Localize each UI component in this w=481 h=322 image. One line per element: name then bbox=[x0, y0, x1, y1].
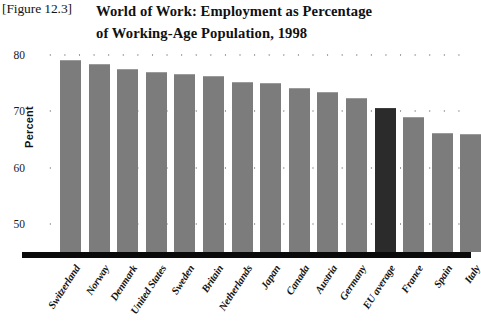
x-tick-label-france: France bbox=[399, 263, 425, 295]
bar-britain[interactable] bbox=[203, 76, 224, 252]
bar-netherlands[interactable] bbox=[232, 82, 253, 252]
bar-switzerland[interactable] bbox=[60, 60, 81, 252]
x-tick-label-britain: Britain bbox=[200, 263, 226, 294]
plot-area: 50607080 bbox=[39, 47, 471, 257]
x-tick-label-japan: Japan bbox=[259, 263, 283, 291]
bar-canada[interactable] bbox=[289, 88, 310, 252]
x-tick-label-switzerland: Switzerland bbox=[46, 263, 82, 311]
figure-number-label: [Figure 12.3] bbox=[2, 1, 72, 17]
y-tick-label: 70 bbox=[14, 105, 26, 117]
x-tick-label-germany: Germany bbox=[337, 263, 368, 302]
figure-title-line-2: of Working-Age Population, 1998 bbox=[96, 22, 478, 44]
bar-norway[interactable] bbox=[89, 64, 110, 252]
x-tick-label-italy: Italy bbox=[463, 263, 481, 285]
bar-series bbox=[39, 47, 471, 252]
x-tick-label-denmark: Denmark bbox=[108, 263, 139, 303]
figure-title-block: [Figure 12.3] World of Work: Employment … bbox=[0, 0, 481, 47]
x-axis-baseline bbox=[22, 252, 471, 258]
y-tick-label: 50 bbox=[14, 218, 26, 230]
bar-sweden[interactable] bbox=[174, 74, 195, 252]
bar-eu-average[interactable] bbox=[375, 108, 396, 252]
bar-denmark[interactable] bbox=[117, 69, 138, 252]
bar-chart: Percent 50607080 SwitzerlandNorwayDenmar… bbox=[0, 47, 481, 322]
bar-japan[interactable] bbox=[260, 83, 281, 252]
y-axis-title: Percent bbox=[23, 92, 35, 162]
bar-germany[interactable] bbox=[346, 98, 367, 252]
bar-italy[interactable] bbox=[460, 134, 481, 252]
x-axis-category-labels: SwitzerlandNorwayDenmarkUnited StatesSwe… bbox=[39, 259, 481, 322]
bar-united-states[interactable] bbox=[146, 72, 167, 252]
x-tick-label-norway: Norway bbox=[84, 263, 111, 297]
figure-title: World of Work: Employment as Percentage … bbox=[96, 0, 478, 44]
bar-france[interactable] bbox=[403, 117, 424, 252]
x-tick-label-spain: Spain bbox=[431, 263, 454, 290]
figure-title-line-1: World of Work: Employment as Percentage bbox=[96, 0, 478, 22]
y-tick-label: 60 bbox=[14, 162, 26, 174]
x-tick-label-sweden: Sweden bbox=[170, 263, 197, 296]
x-tick-label-canada: Canada bbox=[284, 263, 311, 297]
y-tick-label: 80 bbox=[14, 49, 26, 61]
x-tick-label-austria: Austria bbox=[313, 263, 339, 295]
bar-spain[interactable] bbox=[432, 133, 453, 252]
bar-austria[interactable] bbox=[317, 92, 338, 252]
